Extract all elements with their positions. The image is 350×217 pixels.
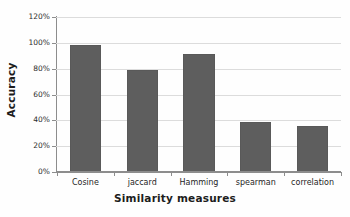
y-axis-tick-mark	[52, 95, 56, 96]
x-axis-tick-mark	[341, 172, 342, 176]
plot-area	[56, 17, 341, 172]
y-axis-tick-label: 100%	[18, 39, 50, 47]
x-axis-tick-label: Cosine	[57, 177, 114, 191]
x-axis-tick-label: spearman	[227, 177, 284, 191]
x-axis-tick-label: jaccard	[114, 177, 171, 191]
bar-slot	[57, 17, 114, 172]
y-axis-tick-label: 40%	[18, 116, 50, 124]
bar	[297, 126, 328, 173]
y-axis-tick-label: 80%	[18, 65, 50, 73]
x-axis-tick-mark	[284, 172, 285, 176]
y-axis-title-text: Accuracy	[5, 63, 17, 118]
x-axis-tick-mark	[171, 172, 172, 176]
x-axis-title: Similarity measures	[0, 192, 350, 204]
y-axis-tick-label: 120%	[18, 13, 50, 21]
y-axis-tick-label: 20%	[18, 142, 50, 150]
y-axis-tick-labels: 0%20%40%60%80%100%120%	[18, 11, 50, 177]
y-axis-tick-mark	[52, 43, 56, 44]
y-axis-tick-mark	[52, 146, 56, 147]
y-axis-tick-mark	[52, 120, 56, 121]
x-axis-tick-label: correlation	[284, 177, 341, 191]
x-axis-tick-mark	[57, 172, 58, 176]
bar-chart: Accuracy 0%20%40%60%80%100%120% Cosineja…	[0, 0, 350, 217]
bar-slot	[114, 17, 171, 172]
x-axis-tick-marks	[57, 172, 341, 176]
y-axis-tick-label: 60%	[18, 91, 50, 99]
bar-slot	[171, 17, 228, 172]
x-axis-tick-mark	[227, 172, 228, 176]
bar	[127, 70, 158, 172]
bar-slot	[227, 17, 284, 172]
bar	[70, 45, 101, 172]
y-axis-tick-label: 0%	[18, 168, 50, 176]
x-axis-tick-label: Hamming	[171, 177, 228, 191]
x-axis-tick-labels: CosinejaccardHammingspearmancorrelation	[57, 177, 341, 191]
x-axis-tick-mark	[114, 172, 115, 176]
bar-slot	[284, 17, 341, 172]
bar	[183, 54, 214, 172]
bar-series	[57, 17, 341, 172]
y-axis-tick-mark	[52, 17, 56, 18]
y-axis-tick-mark	[52, 172, 56, 173]
bar	[240, 122, 271, 172]
y-axis-tick-mark	[52, 69, 56, 70]
